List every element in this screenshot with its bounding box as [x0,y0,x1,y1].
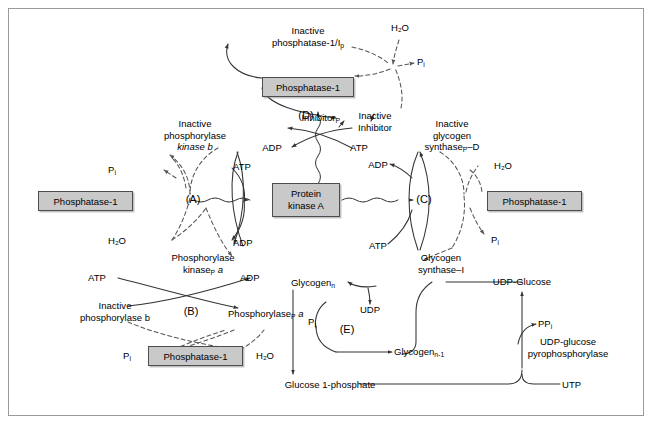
text-line: ATP [88,272,106,283]
label-inactive-glycogen-synthase-p-d: Inactive glycogen synthaseP–D [425,118,480,154]
text-line: Inactive [292,25,325,36]
label-atp-region-a: ATP [233,161,251,173]
text-line: Phosphorylase [228,308,291,319]
label-h2o-top: H₂O [391,22,409,34]
text-line: glycogen [433,130,471,141]
label-adp-region-b: ADP [240,272,260,284]
label-pi-right: Pi [491,234,499,247]
region-label-b: (B) [184,306,199,318]
enzyme-box-label: Phosphatase-1 [276,82,340,93]
text-line: (B) [184,305,199,317]
text-sub: P [211,269,216,276]
label-inhibitor-p: InhibitorP [301,112,340,125]
text-line: kinase b [177,141,213,152]
text-line: UDP-Glucose [493,276,551,287]
text-line: Phosphorylase [171,252,234,263]
enzyme-box-label: Phosphatase-1 [54,196,118,207]
label-h2o-right: H₂O [494,160,512,172]
label-h2o-bottom-left: H₂O [256,350,274,362]
enzyme-box-phosphatase-right[interactable]: Phosphatase-1 [487,191,582,211]
text-sub: i [114,169,116,176]
label-glucose-1-phosphate: Glucose 1-phosphate [285,379,376,391]
label-ppi: PPi [538,318,552,331]
text-line: H₂O [391,22,409,33]
text-line: –D [467,141,479,152]
label-pi-region-e: Pi [308,316,316,329]
enzyme-box-phosphatase-left[interactable]: Phosphatase-1 [38,191,133,211]
text-sub: i [551,323,553,330]
enzyme-box-phosphatase-bottom[interactable]: Phosphatase-1 [148,346,243,366]
label-pi-bottom-left: Pi [123,350,131,363]
text-line: ATP [233,161,251,172]
label-adp-region-d: ADP [262,142,282,154]
text-line: Glycogen [394,346,434,357]
text-line: ATP [369,240,387,251]
text-sub: n-1 [434,351,444,358]
text-line: pyrophosphorylase [528,348,609,359]
text-line: ADP [240,272,260,283]
text-line: ATP [350,142,368,153]
text-line: ADP [233,237,253,248]
protein-kinase-a-line2: kinase A [288,200,324,212]
text-sub: i [314,321,316,328]
text-line: (E) [340,323,355,335]
label-udp: UDP [360,304,380,316]
label-atp-region-b: ATP [88,272,106,284]
label-inactive-phosphatase-1: Inactive phosphatase-1/Ip [272,25,344,49]
text-sub: P [335,117,340,124]
label-utp: UTP [562,379,581,391]
text-line: ADP [262,142,282,153]
text-sub: P [463,146,468,153]
label-adp-region-a: ADP [233,237,253,249]
region-label-e: (E) [340,324,355,336]
text-line: H₂O [256,350,274,361]
text-sub: P [291,313,296,320]
label-pi-top: Pi [417,56,425,69]
text-line: synthase [425,141,463,152]
label-glycogen-n: Glycogenn [291,277,335,290]
text-line: Inactive [436,118,469,129]
label-adp-region-c: ADP [368,159,388,171]
text-line: a [215,264,223,275]
diagram-root: Phosphatase-1 Phosphatase-1 Phosphatase-… [0,0,651,424]
text-line: kinase [183,264,211,275]
enzyme-box-phosphatase-top[interactable]: Phosphatase-1 [262,77,354,97]
protein-kinase-a-line1: Protein [291,188,321,200]
label-phosphorylase-p-a: PhosphorylaseP a [228,308,304,321]
text-line: Glycogen [421,252,461,263]
enzyme-box-protein-kinase-a[interactable]: Protein kinase A [272,183,340,217]
label-atp-region-d: ATP [350,142,368,154]
text-line: (C) [416,193,431,205]
text-line: ADP [368,159,388,170]
text-line: Inactive [99,300,132,311]
label-h2o-left: H₂O [108,235,126,247]
label-inactive-phosphorylase-kinase-b: Inactive phosphorylase kinase b [164,118,226,153]
text-line: PP [538,318,551,329]
text-line: a [296,308,304,319]
text-line: UTP [562,379,581,390]
label-phosphorylase-kinase-p-a: Phosphorylase kinaseP a [171,252,234,276]
text-line: phosphorylase b [80,312,150,323]
enzyme-box-label: Phosphatase-1 [503,196,567,207]
text-line: Glycogen [291,277,331,288]
label-udp-glucose-pyrophosphorylase: UDP-glucose pyrophosphorylase [528,336,609,359]
region-label-c: (C) [416,194,431,206]
text-sub: p [340,42,344,49]
region-label-a: (A) [186,194,201,206]
label-udp-glucose: UDP-Glucose [493,276,551,288]
text-line: phosphorylase [164,130,226,141]
text-line: synthase–I [418,264,464,275]
text-line: Inhibitor [358,122,392,133]
text-sub: n [331,282,335,289]
label-inactive-phosphorylase-b: Inactive phosphorylase b [80,300,150,323]
label-pi-left: Pi [108,164,116,177]
text-sub: i [497,239,499,246]
text-line: Inactive [179,118,212,129]
label-glycogen-synthase-i: Glycogen synthase–I [418,252,464,275]
text-line: H₂O [108,235,126,246]
text-sub: i [423,61,425,68]
label-inactive-inhibitor: Inactive Inhibitor [358,110,392,133]
label-glycogen-n-1: Glycogenn-1 [394,346,444,359]
enzyme-box-label: Phosphatase-1 [164,351,228,362]
text-line: UDP [360,304,380,315]
